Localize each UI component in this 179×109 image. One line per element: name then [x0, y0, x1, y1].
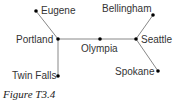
node-label-portland: Portland	[16, 34, 53, 45]
figure-caption: Figure T3.4	[3, 88, 55, 100]
graph-figure: Eugene Portland Olympia Seattle Bellingh…	[0, 0, 179, 109]
node-label-spokane: Spokane	[115, 66, 154, 77]
node-label-eugene: Eugene	[41, 5, 75, 16]
node-seattle-dot	[134, 37, 138, 41]
node-label-olympia: Olympia	[81, 43, 118, 54]
node-twin-falls-dot	[56, 74, 60, 78]
node-spokane-dot	[156, 69, 160, 73]
node-label-seattle: Seattle	[141, 34, 172, 45]
node-portland-dot	[56, 37, 60, 41]
node-olympia-dot	[98, 37, 102, 41]
node-bellingham-dot	[151, 13, 155, 17]
node-label-bellingham: Bellingham	[102, 3, 151, 14]
node-label-twin-falls: Twin Falls	[12, 70, 56, 81]
node-eugene-dot	[34, 9, 38, 13]
